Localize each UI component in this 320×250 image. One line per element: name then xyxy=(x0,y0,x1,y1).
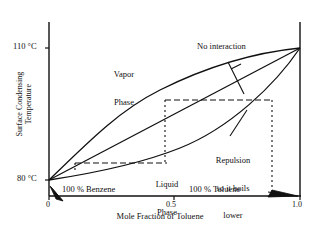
phase-diagram-figure: 110 °C 80 °C Surface Condensing Temperat… xyxy=(0,0,320,250)
annotation-liquid-phase-line-2: Phase xyxy=(147,208,187,217)
x-tick-label-1-0: 1.0 xyxy=(292,201,302,210)
annotation-repulsion-line-3: lower xyxy=(205,211,261,220)
annotation-vapor-phase: Vapor Phase xyxy=(104,52,144,125)
y-axis-title-line-1: Surface Condensing xyxy=(15,34,24,174)
y-axis-title-line-2: Temperature xyxy=(24,34,33,174)
x-tick-label-0: 0 xyxy=(46,201,50,210)
annotation-vapor-phase-line-1: Vapor xyxy=(104,70,144,79)
annotation-toluene-endpoint: 100 % Toluene xyxy=(189,185,240,194)
annotation-no-interaction: No interaction xyxy=(197,42,246,51)
no-interaction-line xyxy=(49,48,300,180)
annotation-vapor-phase-line-2: Phase xyxy=(104,98,144,107)
annotation-liquid-phase: Liquid Phase xyxy=(147,162,187,235)
no-interaction-leader-tick xyxy=(231,64,241,69)
y-tick-label-80: 80 °C xyxy=(17,174,37,183)
y-axis-title: Surface Condensing Temperature xyxy=(15,34,33,174)
annotation-benzene-endpoint: 100 % Benzene xyxy=(62,185,115,194)
annotation-repulsion-line-1: Repulsion xyxy=(205,156,261,165)
annotation-liquid-phase-line-1: Liquid xyxy=(147,180,187,189)
